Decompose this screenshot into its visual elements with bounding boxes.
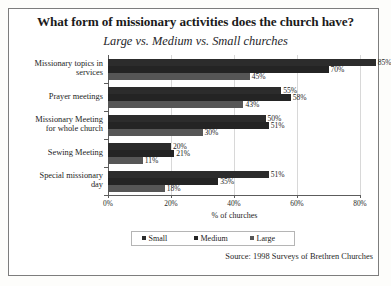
- bar-large-1: [108, 101, 243, 108]
- bar-value-label: 51%: [271, 170, 285, 179]
- legend-entry-small: Small: [142, 234, 167, 243]
- bar-large-0: [108, 73, 250, 80]
- bar-medium-4: [108, 178, 218, 185]
- x-axis-tick-label: 80%: [353, 199, 367, 208]
- bar-value-label: 85%: [378, 58, 391, 67]
- legend-swatch-icon: [194, 236, 198, 240]
- x-axis-tick-label: 0%: [103, 199, 113, 208]
- category-tick: [104, 195, 108, 196]
- bar-value-label: 51%: [271, 121, 285, 130]
- legend-swatch-icon: [250, 236, 254, 240]
- category-label-1: Prayer meetings: [6, 92, 103, 102]
- x-axis-tick: [297, 195, 298, 198]
- x-axis-tick-label: 20%: [164, 199, 178, 208]
- category-label-4: Special missionaryday: [6, 171, 103, 190]
- category-tick: [104, 111, 108, 112]
- bar-large-2: [108, 129, 203, 136]
- category-tick: [104, 139, 108, 140]
- legend-label: Small: [149, 234, 168, 243]
- bar-small-2: [108, 115, 266, 122]
- bar-small-1: [108, 87, 281, 94]
- x-axis-tick: [108, 195, 109, 198]
- bar-small-4: [108, 171, 269, 178]
- x-axis-tick: [234, 195, 235, 198]
- x-axis-tick: [360, 195, 361, 198]
- bar-small-3: [108, 143, 171, 150]
- bar-value-label: 30%: [205, 128, 219, 137]
- chart-page: What form of missionary activities does …: [0, 0, 391, 286]
- bar-value-label: 11%: [145, 156, 159, 165]
- bar-value-label: 70%: [331, 65, 345, 74]
- bar-large-3: [108, 157, 143, 164]
- x-axis-tick-label: 60%: [290, 199, 304, 208]
- gridline: [297, 55, 298, 195]
- x-axis-tick: [171, 195, 172, 198]
- category-tick: [104, 167, 108, 168]
- bar-value-label: 58%: [293, 93, 307, 102]
- category-label-2: Missionary Meetingfor whole church: [6, 115, 103, 134]
- legend-entry-large: Large: [250, 234, 275, 243]
- bar-large-4: [108, 185, 165, 192]
- bar-medium-0: [108, 66, 329, 73]
- gridline: [360, 55, 361, 195]
- chart-subtitle: Large vs. Medium vs. Small churches: [0, 34, 391, 49]
- x-axis-title: % of churches: [108, 211, 361, 220]
- legend-entry-medium: Medium: [194, 234, 228, 243]
- chart-title: What form of missionary activities does …: [0, 14, 391, 30]
- bar-value-label: 18%: [167, 184, 181, 193]
- bar-medium-2: [108, 122, 269, 129]
- bar-medium-3: [108, 150, 174, 157]
- source-note: Source: 1998 Surveys of Brethren Churche…: [225, 252, 373, 261]
- bar-value-label: 35%: [220, 177, 234, 186]
- chart-legend: SmallMediumLarge: [131, 231, 295, 246]
- bar-medium-1: [108, 94, 291, 101]
- legend-label: Medium: [201, 234, 228, 243]
- legend-swatch-icon: [142, 236, 146, 240]
- bar-value-label: 21%: [176, 149, 190, 158]
- x-axis-tick-label: 40%: [227, 199, 241, 208]
- bar-value-label: 45%: [252, 72, 266, 81]
- category-label-0: Missionary topics inservices: [6, 59, 103, 78]
- bar-value-label: 43%: [245, 100, 259, 109]
- category-label-3: Sewing Meeting: [6, 148, 103, 158]
- legend-label: Large: [257, 234, 276, 243]
- category-tick: [104, 83, 108, 84]
